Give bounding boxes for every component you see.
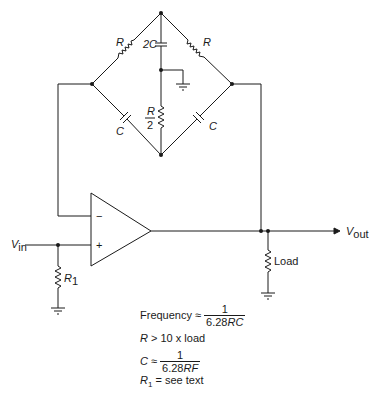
resistor-r-top-right <box>161 13 232 84</box>
wire-bridge-to-output <box>232 84 261 231</box>
label-2c: 2C <box>142 38 157 50</box>
wire-output <box>151 228 340 234</box>
label-r-half-num: R <box>147 105 155 117</box>
c-fraction: 16.28RF <box>160 350 200 374</box>
note-r1: R1 = see text <box>140 374 203 389</box>
label-r-top-left: R <box>116 36 124 48</box>
label-r1: R1 <box>64 272 78 287</box>
resistor-r1 <box>51 245 65 314</box>
label-load: Load <box>274 255 298 267</box>
frequency-fraction: 16.28RC <box>204 304 245 328</box>
label-r-top-right: R <box>203 36 211 48</box>
label-opamp-noninverting: + <box>96 239 102 251</box>
note-r-condition: R > 10 x load <box>140 332 205 344</box>
resistor-r-half-center <box>158 70 164 155</box>
resistor-load <box>261 231 275 299</box>
opamp <box>91 193 151 266</box>
capacitor-c-bottom-right <box>161 84 232 155</box>
label-c-bottom-right: C <box>209 120 217 132</box>
label-vin: Vin <box>11 238 27 253</box>
label-vout: Vout <box>346 225 369 240</box>
ground-connection-center <box>161 70 190 90</box>
note-frequency: Frequency ≈16.28RC <box>140 304 245 328</box>
label-opamp-inverting: − <box>96 210 102 222</box>
label-c-bottom-left: C <box>116 125 124 137</box>
note-c-formula: C ≈16.28RF <box>140 350 200 374</box>
label-r-half-den: 2 <box>147 119 153 131</box>
wire-feedback-to-inverting <box>58 84 92 216</box>
